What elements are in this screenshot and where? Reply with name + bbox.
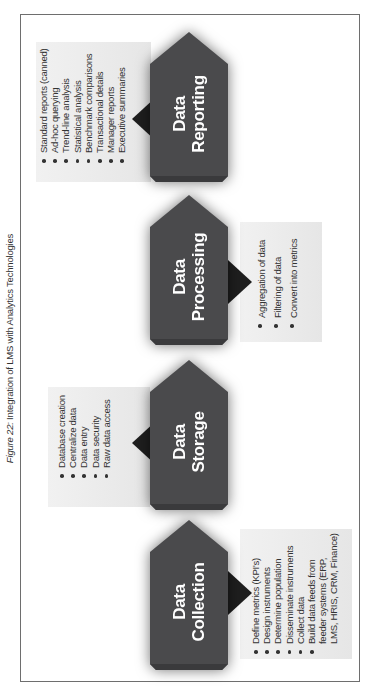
list-item: Transactional details [94, 49, 105, 165]
list-item: Ad-hoc querying [49, 49, 60, 165]
figure-canvas: Figure 22: Integration of LMS with Analy… [0, 0, 368, 697]
list-item: LMS, HRIS, CRM, Finance) [328, 533, 339, 655]
list-item: Determine population [272, 533, 283, 655]
processing-title-line2: Processing [189, 233, 208, 322]
list-item: Build data feeds from [306, 533, 317, 655]
collection-title: Data Collection [148, 542, 230, 662]
figure-label: Figure 22: [4, 422, 15, 463]
storage-title-line1: Data [170, 424, 189, 460]
reporting-list: Standard reports (canned) Ad-hoc queryin… [38, 49, 128, 165]
reporting-arrow-shape: Data Reporting [148, 30, 230, 182]
storage-arrow-shape: Data Storage [148, 358, 230, 510]
list-item: Centralize data [67, 395, 78, 479]
list-item: Benchmark comparisons [83, 49, 94, 165]
figure-title: Integration of LMS with Analytics Techno… [4, 234, 15, 420]
list-item: Disseminate instruments [284, 533, 295, 655]
reporting-title-line1: Data [170, 96, 189, 132]
list-item: Convert into metrics [286, 239, 302, 329]
collection-list: Define metrics (KPI's) Design instrument… [250, 533, 340, 655]
list-item: Trend-line analysis [60, 49, 71, 165]
list-item: Data security [90, 395, 101, 479]
processing-title: Data Processing [148, 217, 230, 337]
list-item: Data entry [78, 395, 89, 479]
list-item: Database creation [56, 395, 67, 479]
collection-arrow-shape: Data Collection [148, 518, 230, 670]
list-item: Filtering of data [270, 239, 286, 329]
figure-caption: Figure 22: Integration of LMS with Analy… [4, 0, 20, 697]
storage-title: Data Storage [148, 382, 230, 502]
list-item: Design instruments [261, 533, 272, 655]
list-item: Collect data [295, 533, 306, 655]
processing-pointer-icon [228, 260, 254, 304]
list-item: Executive summaries [116, 49, 127, 165]
processing-title-line1: Data [170, 259, 189, 295]
list-item: Aggregation of data [254, 239, 270, 329]
storage-list: Database creation Centralize data Data e… [56, 395, 112, 479]
storage-title-line2: Storage [189, 411, 208, 472]
list-item: feeder systems (ERP, [317, 533, 328, 655]
reporting-title: Data Reporting [148, 54, 230, 174]
reporting-title-line2: Reporting [189, 75, 208, 153]
processing-arrow-shape: Data Processing [148, 193, 230, 345]
collection-title-line1: Data [170, 584, 189, 620]
list-item: Raw data access [101, 395, 112, 479]
list-item: Statistical analysis [72, 49, 83, 165]
list-item: Manager reports [105, 49, 116, 165]
list-item: Standard reports (canned) [38, 49, 49, 165]
list-item: Define metrics (KPI's) [250, 533, 261, 655]
collection-title-line2: Collection [189, 562, 208, 641]
processing-list: Aggregation of data Filtering of data Co… [254, 239, 302, 329]
